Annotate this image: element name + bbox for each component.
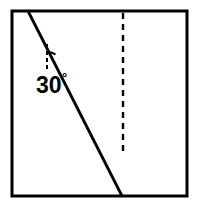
outer-frame-border <box>12 11 187 196</box>
diagram-svg: 30 ° <box>0 0 198 209</box>
angle-value-label: 30 <box>36 72 62 98</box>
degree-symbol-label: ° <box>62 70 67 85</box>
figure-canvas: 30 ° <box>0 0 198 209</box>
